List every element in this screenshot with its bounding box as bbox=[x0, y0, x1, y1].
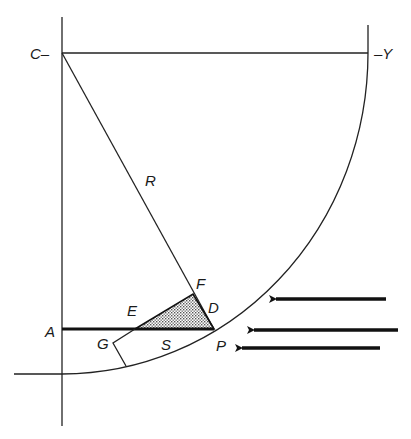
diagram-canvas: C– –Y R F D E A G S P bbox=[0, 0, 411, 439]
label-r: R bbox=[145, 172, 156, 189]
label-g: G bbox=[97, 335, 109, 352]
label-e: E bbox=[127, 302, 138, 319]
label-y: –Y bbox=[373, 45, 393, 62]
label-s: S bbox=[161, 336, 171, 353]
label-p: P bbox=[216, 337, 226, 354]
radius-line bbox=[62, 53, 214, 329]
label-d: D bbox=[208, 299, 219, 316]
label-c: C– bbox=[30, 45, 50, 62]
segment-g bbox=[113, 329, 135, 366]
label-f: F bbox=[196, 275, 206, 292]
label-a: A bbox=[44, 323, 55, 340]
shaded-triangle bbox=[135, 294, 214, 329]
